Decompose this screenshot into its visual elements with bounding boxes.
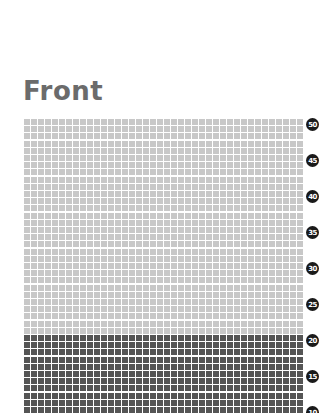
- seat-cell: [80, 126, 86, 132]
- seat-cell: [115, 335, 121, 341]
- seat-cell: [122, 184, 128, 190]
- seat-cell: [115, 378, 121, 384]
- seat-cell: [192, 292, 198, 298]
- seat-cell: [199, 126, 205, 132]
- seat-cell: [45, 227, 51, 233]
- seat-cell: [255, 285, 261, 291]
- seat-cell: [122, 241, 128, 247]
- seat-cell: [283, 119, 289, 125]
- seat-cell: [94, 378, 100, 384]
- seat-cell: [290, 349, 296, 355]
- seat-cell: [115, 321, 121, 327]
- seat-cell: [178, 335, 184, 341]
- seat-cell: [31, 119, 37, 125]
- seat-cell: [234, 328, 240, 334]
- seat-cell: [80, 335, 86, 341]
- seat-cell: [206, 335, 212, 341]
- seat-cell: [297, 385, 303, 391]
- seat-cell: [213, 133, 219, 139]
- seat-cell: [136, 321, 142, 327]
- seat-cell: [178, 407, 184, 413]
- seat-cell: [206, 364, 212, 370]
- seat-cell: [171, 393, 177, 399]
- seat-cell: [115, 184, 121, 190]
- seat-cell: [150, 357, 156, 363]
- seat-cell: [115, 270, 121, 276]
- seat-cell: [220, 371, 226, 377]
- seat-cell: [171, 198, 177, 204]
- seat-cell: [157, 184, 163, 190]
- seat-cell: [45, 285, 51, 291]
- seat-cell: [52, 371, 58, 377]
- seat-cell: [59, 119, 65, 125]
- seat-cell: [157, 407, 163, 413]
- seat-cell: [66, 313, 72, 319]
- seat-cell: [136, 306, 142, 312]
- seat-cell: [297, 263, 303, 269]
- seat-cell: [276, 205, 282, 211]
- seat-cell: [213, 241, 219, 247]
- seat-cell: [24, 162, 30, 168]
- seat-cell: [213, 198, 219, 204]
- seat-cell: [45, 371, 51, 377]
- seat-cell: [262, 198, 268, 204]
- seat-cell: [136, 162, 142, 168]
- seat-cell: [255, 119, 261, 125]
- seat-cell: [248, 256, 254, 262]
- seat-cell: [241, 328, 247, 334]
- seat-cell: [255, 378, 261, 384]
- seat-cell: [24, 299, 30, 305]
- seat-cell: [255, 263, 261, 269]
- seat-cell: [150, 234, 156, 240]
- seat-cell: [248, 378, 254, 384]
- seat-cell: [199, 162, 205, 168]
- seat-cell: [143, 306, 149, 312]
- seat-cell: [45, 234, 51, 240]
- seat-cell: [262, 285, 268, 291]
- seat-cell: [227, 177, 233, 183]
- seat-cell: [227, 299, 233, 305]
- seat-cell: [66, 249, 72, 255]
- seat-cell: [220, 184, 226, 190]
- seat-cell: [31, 299, 37, 305]
- seat-cell: [94, 328, 100, 334]
- seat-cell: [73, 364, 79, 370]
- seat-cell: [136, 249, 142, 255]
- seat-cell: [101, 349, 107, 355]
- seat-cell: [31, 155, 37, 161]
- seat-cell: [101, 285, 107, 291]
- seat-cell: [38, 292, 44, 298]
- seat-cell: [276, 141, 282, 147]
- seat-cell: [87, 241, 93, 247]
- seat-cell: [143, 371, 149, 377]
- seat-cell: [213, 328, 219, 334]
- seat-cell: [59, 249, 65, 255]
- seat-cell: [290, 292, 296, 298]
- seat-cell: [290, 285, 296, 291]
- seat-cell: [227, 407, 233, 413]
- seat-cell: [157, 357, 163, 363]
- seat-cell: [297, 141, 303, 147]
- seat-cell: [101, 169, 107, 175]
- seat-cell: [150, 241, 156, 247]
- seat-cell: [143, 321, 149, 327]
- seat-cell: [262, 213, 268, 219]
- seat-cell: [269, 162, 275, 168]
- seat-cell: [192, 357, 198, 363]
- seat-cell: [66, 184, 72, 190]
- seat-cell: [129, 393, 135, 399]
- row-label-badge: 10: [306, 406, 319, 413]
- seat-cell: [206, 270, 212, 276]
- seat-cell: [80, 292, 86, 298]
- seat-cell: [136, 393, 142, 399]
- seat-cell: [199, 177, 205, 183]
- seat-cell: [234, 169, 240, 175]
- seat-cell: [171, 169, 177, 175]
- seat-cell: [101, 393, 107, 399]
- row-label-badge: 50: [306, 118, 319, 131]
- seat-cell: [213, 191, 219, 197]
- seat-cell: [150, 306, 156, 312]
- seat-cell: [94, 277, 100, 283]
- seat-cell: [150, 277, 156, 283]
- seat-cell: [290, 306, 296, 312]
